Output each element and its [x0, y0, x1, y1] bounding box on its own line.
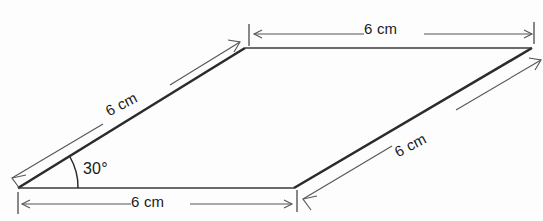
label-top-side: 6 cm: [364, 21, 397, 36]
diagram-canvas: 6 cm 6 cm 6 cm 6 cm 30°: [0, 0, 543, 221]
rhombus-edge-left: [18, 48, 245, 188]
angle-arc-30: [70, 157, 78, 188]
label-angle: 30°: [83, 161, 108, 177]
dimension-right-arrow-start: [303, 196, 317, 210]
label-bottom-side: 6 cm: [131, 194, 164, 209]
dimension-left-arrow-start: [12, 175, 26, 189]
dimension-right-line-lower: [303, 146, 392, 199]
dimension-left: [12, 40, 240, 189]
angle-arc-group: [70, 157, 78, 188]
dimension-left-line-upper: [170, 42, 240, 85]
rhombus-edge-right: [294, 48, 532, 188]
rhombus-figure: [0, 0, 543, 221]
